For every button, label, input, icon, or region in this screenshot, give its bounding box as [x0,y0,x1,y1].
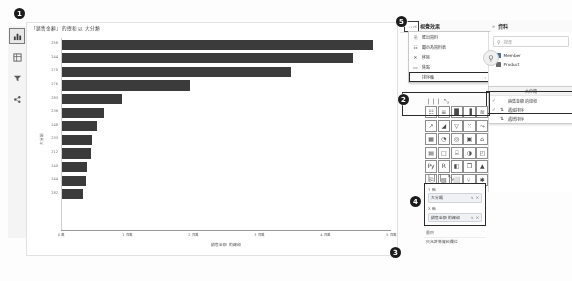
bar-row[interactable]: 282 [61,188,391,202]
scatter-icon[interactable]: ⁙ [463,120,475,132]
stacked-column-icon[interactable]: █ [451,106,463,118]
share-view-icon[interactable] [10,92,24,106]
line-chart-icon[interactable]: ↗ [425,120,437,132]
visualizations-pane-header[interactable]: « 視覺效果 [414,22,440,29]
card-icon[interactable]: □ [438,147,450,159]
y-axis-tick-label: 244 [51,177,58,181]
sort-direction-icon: ⇅ [500,116,505,121]
y-pill-remove-icon[interactable]: ✕ [476,195,479,200]
data-tree-item[interactable]: ›Member [489,51,572,60]
bar-row[interactable]: 240 [61,160,391,174]
y-axis-field-pill[interactable]: 大分類 ∨ ✕ [428,193,482,203]
field-wells-panel[interactable]: ❘❘❘ ⤡ Y 軸 大分類 ∨ ✕ X 軸 銷售金額 的總和 ∨ ✕ 圖 [424,172,486,246]
gauge-icon[interactable]: ◑ [463,147,475,159]
menu-item-label: 排序軸 [422,74,434,80]
data-pane-header[interactable]: » 資料 [492,22,508,29]
bar-row[interactable]: 258 [61,38,391,52]
bar-row[interactable]: 275 [61,65,391,79]
clustered-bar-icon[interactable]: ≡ [438,106,450,118]
context-menu-item[interactable]: ☷顯示為資料表 [409,42,489,52]
bar-row[interactable]: 233 [61,133,391,147]
context-menu-item[interactable]: ▭焦點 [409,62,489,72]
table-view-icon[interactable] [10,50,24,64]
format-visual-icon[interactable]: ⤡ [444,97,449,105]
sort-menu-item[interactable]: ⇅遞增排序 [489,114,572,123]
python-icon[interactable]: Py [425,160,437,172]
data-search-placeholder: 搜尋 [504,39,512,45]
bar-row[interactable]: 248 [61,120,391,134]
x-axis-field-pill[interactable]: 銷售金額 的總和 ∨ ✕ [428,213,482,223]
data-field-tree[interactable]: ›Member›Product [489,51,572,69]
bar[interactable] [61,53,353,63]
build-tab-icon[interactable]: ❘❘❘ [426,174,444,182]
menu-item-icon: ✕ [412,55,419,60]
slicer-icon[interactable]: ◧ [451,160,463,172]
pie-chart-icon[interactable]: ◔ [438,133,450,145]
treemap-icon[interactable]: ▣ [463,133,475,145]
bar-row[interactable]: 244 [61,174,391,188]
donut-icon[interactable]: ◎ [451,133,463,145]
x-pill-actions[interactable]: ∨ ✕ [471,215,479,220]
bar[interactable] [61,121,97,131]
data-search-box[interactable]: ⚲ 搜尋 [493,36,569,47]
bar[interactable] [61,108,104,118]
submenu-arrow-icon: › [484,75,486,80]
stacked-bar-icon[interactable]: ☷ [425,106,437,118]
context-menu-item[interactable]: ⎘匯出資料 [409,32,489,42]
kpi-icon[interactable]: ◰ [476,147,488,159]
build-visual-icon[interactable]: ❘❘❘ [426,97,441,104]
bar[interactable] [61,176,86,186]
table-icon[interactable]: ▤ [425,147,437,159]
bar-row[interactable]: 283 [61,92,391,106]
context-menu[interactable]: ⎘匯出資料☷顯示為資料表✕移除▭焦點排序軸› [408,31,490,83]
bar-row[interactable]: 212 [61,147,391,161]
bar[interactable] [61,148,91,158]
map-icon[interactable]: ⌂ [476,133,488,145]
bar[interactable] [61,135,92,145]
visualizations-pane-title: 視覺效果 [420,22,440,29]
filter-view-icon[interactable] [10,71,24,85]
waterfall-icon[interactable]: ⤳ [476,120,488,132]
bar[interactable] [61,80,190,90]
matrix-icon[interactable]: ▦ [425,133,437,145]
visualization-type-gallery[interactable]: ❘❘❘ ⤡ ☷≡█▐≋↗◢▽⁙⤳▦◔◎▣⌂▤□⌸◑◰PyR◧❐▲⎘▧⬜⑂✱ [424,96,486,168]
shape-icon[interactable]: ▲ [476,160,488,172]
area-chart-icon[interactable]: ◢ [438,120,450,132]
menu-item-icon: ⎘ [412,35,419,40]
bar[interactable] [61,40,373,50]
format-tab-icon[interactable]: ⤡ [448,174,454,182]
bar-row[interactable]: 244 [61,52,391,66]
sort-menu-item[interactable]: ✓銷售金額 的總和 [489,96,572,105]
sort-menu-item[interactable]: ✓⇅遞減排序 [489,105,572,114]
x-pill-remove-icon[interactable]: ✕ [476,215,479,220]
y-pill-actions[interactable]: ∨ ✕ [471,195,479,200]
legend-well[interactable]: 圖例 只允許將資料欄位 [424,229,486,246]
bar-row[interactable]: 239 [61,106,391,120]
bar[interactable] [61,67,291,77]
sort-axis-submenu[interactable]: 大分類✓銷售金額 的總和✓⇅遞減排序⇅遞增排序 [488,86,572,124]
bar[interactable] [61,162,87,172]
report-canvas[interactable]: 「銷售金額」的總和 以 大分類 大分類 25824427527628323924… [26,22,398,256]
ribbon-icon[interactable]: ≋ [476,106,488,118]
bar[interactable] [61,94,122,104]
collapse-visualizations-icon[interactable]: « [414,23,417,29]
chart-view-icon[interactable] [10,29,24,43]
bar[interactable] [61,189,83,199]
menu-item-icon: ☷ [412,45,419,50]
x-axis-tick-label: 4 百萬 [320,232,329,237]
funnel-icon[interactable]: ▽ [451,120,463,132]
collapse-data-icon[interactable]: » [492,23,495,29]
menu-item-label: 焦點 [422,64,430,70]
r-script-icon[interactable]: R [438,160,450,172]
bar-row[interactable]: 276 [61,79,391,93]
field-wells-box[interactable]: Y 軸 大分類 ∨ ✕ X 軸 銷售金額 的總和 ∨ ✕ [424,183,486,226]
text-box-icon[interactable]: ❐ [463,160,475,172]
clustered-column-icon[interactable]: ▐ [463,106,475,118]
bar-chart-plot[interactable]: 258244275276283239248233212240244282 [61,38,391,231]
x-pill-dropdown-icon[interactable]: ∨ [471,215,474,220]
multirow-card-icon[interactable]: ⌸ [451,147,463,159]
context-menu-item[interactable]: ✕移除 [409,52,489,62]
y-pill-dropdown-icon[interactable]: ∨ [471,195,474,200]
context-menu-item[interactable]: 排序軸› [409,72,489,82]
data-tree-item[interactable]: ›Product [489,60,572,69]
